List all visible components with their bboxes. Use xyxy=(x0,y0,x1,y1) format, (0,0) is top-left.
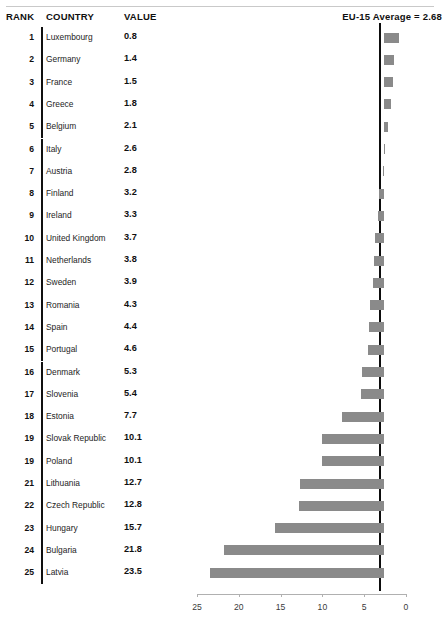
cell-value: 12.7 xyxy=(124,477,142,487)
cell-country: Estonia xyxy=(46,411,74,421)
x-axis-tick xyxy=(239,594,240,597)
row-separator xyxy=(41,205,43,227)
cell-rank: 15 xyxy=(6,344,34,354)
row-separator xyxy=(41,72,43,94)
row-separator xyxy=(41,406,43,428)
cell-country: Denmark xyxy=(46,367,80,377)
row-separator xyxy=(41,362,43,384)
cell-rank: 14 xyxy=(6,322,34,332)
chart-bar xyxy=(384,77,394,87)
x-axis-tick-label: 15 xyxy=(269,602,293,612)
cell-country: Hungary xyxy=(46,523,78,533)
table-row: 11Netherlands3.8 xyxy=(0,250,448,272)
chart-bar xyxy=(322,434,384,444)
cell-rank: 21 xyxy=(6,478,34,488)
table-row: 10United Kingdom3.7 xyxy=(0,228,448,250)
cell-rank: 19 xyxy=(6,456,34,466)
chart-bar xyxy=(379,189,383,199)
cell-value: 3.7 xyxy=(124,232,137,242)
row-separator xyxy=(41,139,43,161)
table-row: 22Czech Republic12.8 xyxy=(0,495,448,517)
chart-body: 1Luxembourg0.82Germany1.43France1.54Gree… xyxy=(0,27,448,592)
cell-rank: 18 xyxy=(6,411,34,421)
row-separator xyxy=(41,272,43,294)
cell-value: 2.1 xyxy=(124,120,137,130)
table-row: 1Luxembourg0.8 xyxy=(0,27,448,49)
cell-rank: 10 xyxy=(6,233,34,243)
table-row: 21Lithuania12.7 xyxy=(0,473,448,495)
table-row: 6Italy2.6 xyxy=(0,139,448,161)
row-separator xyxy=(41,94,43,116)
cell-rank: 17 xyxy=(6,389,34,399)
cell-country: Romania xyxy=(46,300,80,310)
row-separator xyxy=(41,540,43,562)
cell-country: Latvia xyxy=(46,567,68,577)
table-row: 9Ireland3.3 xyxy=(0,205,448,227)
x-axis-tick-label: 10 xyxy=(310,602,334,612)
chart-bar xyxy=(373,278,383,288)
chart-bar xyxy=(299,501,384,511)
row-separator xyxy=(41,295,43,317)
column-header-country: COUNTRY xyxy=(46,11,94,22)
row-separator xyxy=(41,339,43,361)
cell-value: 4.6 xyxy=(124,343,137,353)
cell-rank: 12 xyxy=(6,277,34,287)
cell-country: Bulgaria xyxy=(46,545,77,555)
row-separator xyxy=(41,161,43,183)
cell-country: Belgium xyxy=(46,121,76,131)
chart-bar xyxy=(384,55,395,65)
chart-bar xyxy=(384,122,389,132)
cell-value: 3.8 xyxy=(124,254,137,264)
chart-bar xyxy=(370,300,384,310)
table-row: 24Bulgaria21.8 xyxy=(0,540,448,562)
row-separator xyxy=(41,473,43,495)
cell-rank: 9 xyxy=(6,210,34,220)
cell-country: Netherlands xyxy=(46,255,91,265)
row-separator xyxy=(41,228,43,250)
row-separator xyxy=(41,27,43,49)
cell-rank: 11 xyxy=(6,255,34,265)
table-row: 17Slovenia5.4 xyxy=(0,384,448,406)
chart-bar xyxy=(384,144,385,154)
cell-value: 2.8 xyxy=(124,165,137,175)
table-row: 19Slovak Republic10.1 xyxy=(0,428,448,450)
cell-value: 21.8 xyxy=(124,544,142,554)
cell-value: 10.1 xyxy=(124,432,142,442)
cell-value: 4.4 xyxy=(124,321,137,331)
table-row: 25Latvia23.5 xyxy=(0,562,448,584)
cell-country: Slovenia xyxy=(46,389,78,399)
table-row: 4Greece1.8 xyxy=(0,94,448,116)
x-axis: 2520151050 xyxy=(0,592,448,631)
column-header-rank: RANK xyxy=(6,11,34,22)
x-axis-tick xyxy=(322,594,323,597)
eu15-average-label: EU-15 Average = 2.68 xyxy=(330,11,442,22)
cell-country: Sweden xyxy=(46,277,76,287)
cell-country: Spain xyxy=(46,322,67,332)
row-separator xyxy=(41,495,43,517)
cell-value: 5.4 xyxy=(124,388,137,398)
cell-country: Portugal xyxy=(46,344,77,354)
x-axis-tick-label: 25 xyxy=(185,602,209,612)
cell-country: Luxembourg xyxy=(46,32,93,42)
chart-bar xyxy=(383,166,384,176)
x-axis-tick xyxy=(281,594,282,597)
cell-value: 12.8 xyxy=(124,499,142,509)
cell-value: 1.5 xyxy=(124,76,137,86)
row-separator xyxy=(41,518,43,540)
chart-bar xyxy=(374,256,383,266)
table-row: 14Spain4.4 xyxy=(0,317,448,339)
cell-country: Lithuania xyxy=(46,478,80,488)
cell-rank: 19 xyxy=(6,433,34,443)
cell-rank: 5 xyxy=(6,121,34,131)
chart-bar xyxy=(300,479,384,489)
row-separator xyxy=(41,562,43,584)
cell-rank: 4 xyxy=(6,99,34,109)
cell-value: 1.4 xyxy=(124,53,137,63)
cell-value: 23.5 xyxy=(124,566,142,576)
row-separator xyxy=(41,49,43,71)
cell-value: 7.7 xyxy=(124,410,137,420)
table-row: 2Germany1.4 xyxy=(0,49,448,71)
cell-value: 3.2 xyxy=(124,187,137,197)
cell-value: 1.8 xyxy=(124,98,137,108)
chart-bar xyxy=(224,545,384,555)
